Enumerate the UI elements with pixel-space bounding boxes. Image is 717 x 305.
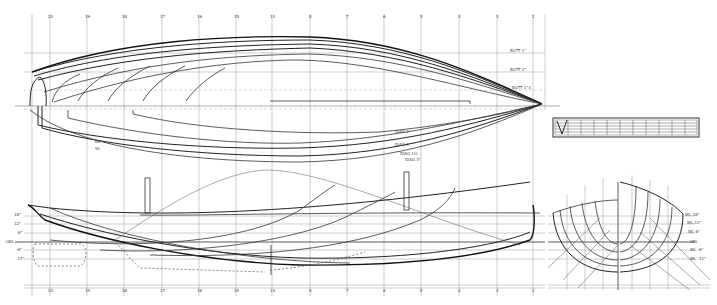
svg-text:BUTT 1"3: BUTT 1"3 — [512, 85, 531, 90]
svg-text:7: 7 — [346, 288, 349, 293]
svg-text:15: 15 — [234, 288, 240, 293]
svg-text:15: 15 — [234, 14, 240, 19]
svg-text:7: 7 — [346, 14, 349, 19]
scale-box — [553, 118, 699, 137]
svg-text:BUTT 2": BUTT 2" — [510, 67, 526, 72]
svg-text:WL -6": WL -6" — [690, 247, 703, 252]
svg-text:Bk: Bk — [95, 139, 101, 144]
svg-text:2: 2 — [532, 14, 535, 19]
svg-text:-6": -6" — [16, 247, 22, 252]
half-breadth-plan: Bk Sh DIAG 2 DIAG 1 DIAG 1½ DIAG 3" BUTT… — [15, 37, 560, 162]
station-labels-bottom: 20 19 18 17 16 15 14 8 7 6 5 4 3 2 — [48, 288, 535, 293]
svg-text:12": 12" — [14, 221, 21, 226]
svg-text:WL 18": WL 18" — [685, 212, 700, 217]
svg-text:14: 14 — [270, 288, 276, 293]
svg-text:17: 17 — [160, 288, 166, 293]
svg-text:18: 18 — [122, 288, 128, 293]
svg-text:DIAG 2: DIAG 2 — [395, 129, 409, 134]
svg-text:WL 12": WL 12" — [687, 220, 702, 225]
svg-text:LWL: LWL — [690, 239, 699, 244]
svg-text:16: 16 — [197, 14, 203, 19]
svg-text:18": 18" — [14, 212, 21, 217]
svg-text:6: 6 — [383, 14, 386, 19]
svg-text:DIAG 1½: DIAG 1½ — [400, 151, 418, 156]
svg-text:3: 3 — [496, 288, 499, 293]
svg-text:5: 5 — [420, 288, 423, 293]
svg-text:20: 20 — [48, 288, 54, 293]
svg-text:5: 5 — [420, 14, 423, 19]
svg-text:2: 2 — [532, 288, 535, 293]
svg-text:16: 16 — [197, 288, 203, 293]
svg-text:4: 4 — [458, 288, 461, 293]
svg-text:8: 8 — [309, 288, 312, 293]
svg-text:19: 19 — [85, 14, 91, 19]
svg-text:3: 3 — [496, 14, 499, 19]
svg-text:WL -12": WL -12" — [690, 256, 706, 261]
svg-text:WL 6": WL 6" — [688, 229, 700, 234]
body-plan: WL 18" WL 12" WL 6" LWL WL -6" WL -12" — [548, 175, 710, 290]
svg-text:18: 18 — [122, 14, 128, 19]
svg-text:DIAG 3": DIAG 3" — [405, 157, 421, 162]
station-labels-top: 20 19 18 17 16 15 14 8 7 6 5 4 3 2 — [48, 14, 535, 19]
svg-text:Sh: Sh — [95, 146, 101, 151]
svg-text:14: 14 — [270, 14, 276, 19]
svg-text:DIAG 1: DIAG 1 — [395, 142, 409, 147]
svg-text:19: 19 — [85, 288, 91, 293]
svg-text:20: 20 — [48, 14, 54, 19]
svg-text:4: 4 — [458, 14, 461, 19]
svg-text:8: 8 — [309, 14, 312, 19]
svg-text:6: 6 — [383, 288, 386, 293]
svg-text:-12": -12" — [16, 256, 25, 261]
svg-text:BUTT 1": BUTT 1" — [510, 48, 526, 53]
station-grid — [32, 14, 545, 296]
lines-plan-drawing: 20 19 18 17 16 15 14 8 7 6 5 4 3 2 — [0, 0, 717, 305]
svg-text:17: 17 — [160, 14, 166, 19]
svg-text:6": 6" — [18, 230, 23, 235]
svg-text:LWL: LWL — [6, 239, 15, 244]
